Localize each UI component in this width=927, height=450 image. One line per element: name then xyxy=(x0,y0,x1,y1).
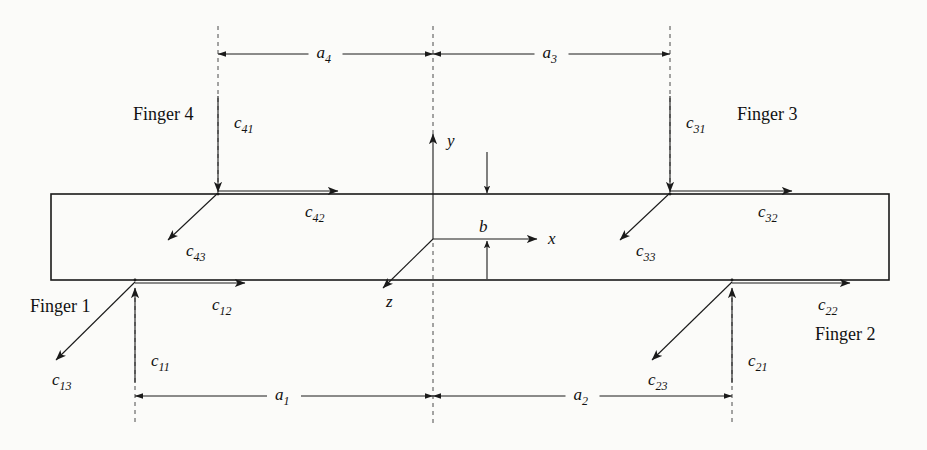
figure-canvas: xyz b a4a3a1a2 c11c12c13c21c22c23c31c32c… xyxy=(0,0,927,450)
finger-3-force-c33-label: c33 xyxy=(636,241,656,264)
b-dimension-label: b xyxy=(479,217,488,236)
finger-2-force-c21-label: c21 xyxy=(748,351,768,374)
finger-1-force-c13-label: c13 xyxy=(52,370,72,393)
dimension-a2-label: a2 xyxy=(574,385,589,408)
finger-4-force-c41-label: c41 xyxy=(234,113,254,136)
diagram-svg: xyz b a4a3a1a2 c11c12c13c21c22c23c31c32c… xyxy=(0,0,927,450)
finger-3-force-c33-arrow xyxy=(620,193,670,240)
finger-2-name-label: Finger 2 xyxy=(815,324,876,344)
y-axis-label: y xyxy=(445,131,455,150)
dimension-a3-label: a3 xyxy=(543,43,558,66)
dimension-a4-label: a4 xyxy=(317,43,332,66)
finger-2-force-c23-label: c23 xyxy=(648,370,668,393)
finger-3-name-label: Finger 3 xyxy=(737,104,798,124)
dimension-a1-label: a1 xyxy=(275,385,290,408)
finger-4-force-c43-label: c43 xyxy=(186,241,206,264)
z-axis-label: z xyxy=(385,292,393,311)
coordinate-frame-group: xyz xyxy=(383,131,556,311)
finger-3-force-c31-label: c31 xyxy=(686,113,706,136)
finger-1-force-c11-label: c11 xyxy=(151,351,170,374)
finger-1-contact-point xyxy=(134,279,137,282)
finger-3-force-c32-label: c32 xyxy=(758,202,778,225)
finger-4-force-c43-arrow xyxy=(168,193,218,240)
finger-2-contact-point xyxy=(731,279,734,282)
finger-1-name-label: Finger 1 xyxy=(30,296,91,316)
finger-1-force-c12-label: c12 xyxy=(212,295,232,318)
x-axis-label: x xyxy=(547,229,556,248)
finger-2-force-c22-label: c22 xyxy=(818,295,838,318)
finger-4-name-label: Finger 4 xyxy=(133,104,194,124)
finger-2-force-c23-arrow xyxy=(652,282,732,360)
b-dimension-group: b xyxy=(479,152,488,279)
finger-1-force-c13-arrow xyxy=(56,282,135,360)
finger-4-force-c42-label: c42 xyxy=(305,202,325,225)
